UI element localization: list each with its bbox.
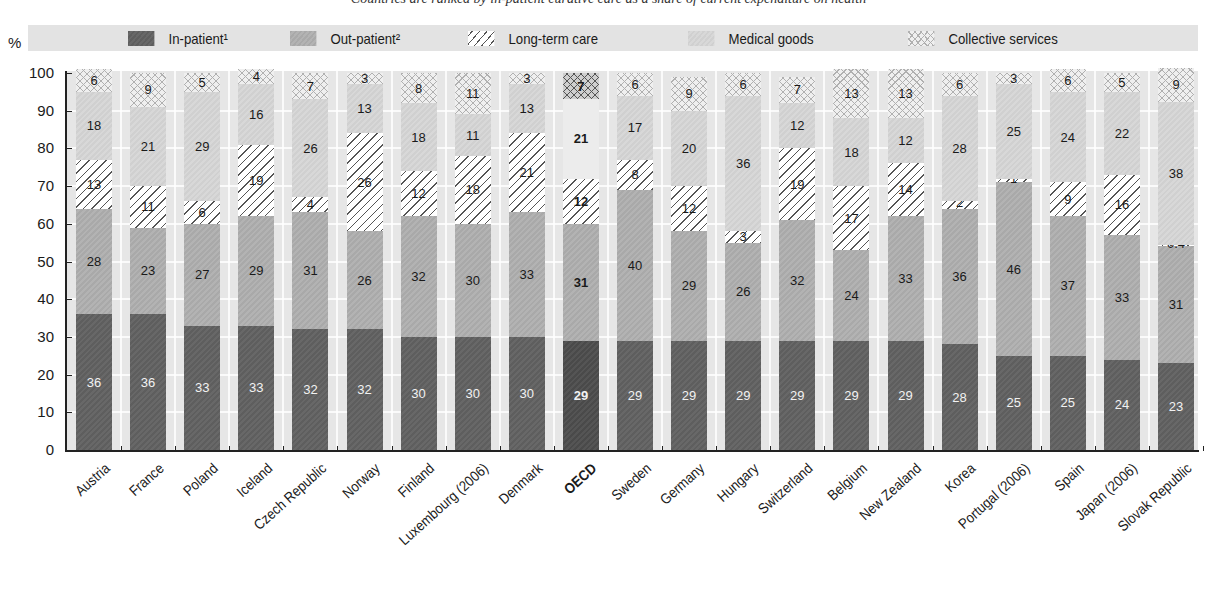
legend-swatch-long-term-care (468, 31, 494, 46)
data-label: 13 (844, 86, 858, 101)
data-label: 14 (898, 182, 912, 197)
gridline-vertical (769, 71, 771, 451)
bar-segment-med: 12 (779, 103, 815, 148)
bar-segment-med: 18 (833, 118, 869, 186)
bar-segment-outp: 29 (238, 216, 274, 325)
bar-segment-ltc: 11 (130, 186, 166, 227)
bar-segment-inp: 29 (888, 341, 924, 450)
bar-segment-outp: 36 (942, 209, 978, 345)
gridline-vertical (823, 71, 825, 451)
bar-segment-inp: 30 (401, 337, 437, 450)
legend-swatch-collective-services (908, 31, 934, 46)
x-tick-mark (608, 446, 609, 451)
bar-segment-inp: 33 (238, 326, 274, 450)
gridline-vertical (932, 71, 934, 451)
bar-segment-inp: 30 (509, 337, 545, 450)
bar-segment-med: 21 (130, 107, 166, 186)
x-tick-mark (337, 446, 338, 451)
legend-label: Out-patient² (330, 30, 400, 47)
bar-segment-ltc: 19 (779, 148, 815, 220)
y-tick-mark (66, 262, 72, 263)
bar-segment-med: 28 (942, 96, 978, 202)
x-tick-label: Austria (72, 460, 113, 499)
y-tick-mark (66, 337, 72, 338)
gridline-vertical (499, 71, 501, 451)
bar-segment-outp: 23 (130, 228, 166, 315)
data-label: 33 (195, 380, 209, 395)
x-tick-mark (229, 446, 230, 451)
bar-segment-outp: 32 (779, 220, 815, 341)
y-tick-label: 100 (10, 64, 54, 81)
bar-segment-inp: 24 (1104, 360, 1140, 450)
x-tick-label: Poland (180, 460, 221, 499)
data-label: 38 (1169, 166, 1183, 181)
x-tick-mark (1095, 446, 1096, 451)
data-label: 31 (303, 263, 317, 278)
bar-segment-ltc: 14 (888, 163, 924, 216)
bar-segment-outp: 30 (455, 224, 491, 337)
x-tick-label: Denmark (495, 460, 545, 507)
bar-segment-ltc: 4 (292, 197, 328, 212)
data-label: 5 (199, 75, 206, 90)
legend-item-collective-services: Collective services (908, 30, 1058, 47)
data-label: 12 (411, 186, 425, 201)
data-label: 22 (1115, 126, 1129, 141)
data-label: 7 (577, 79, 584, 94)
bar-segment-inp: 29 (725, 341, 761, 450)
data-label: 3 (361, 71, 368, 86)
bar-segment-inp: 28 (942, 344, 978, 450)
x-tick-mark (662, 446, 663, 451)
x-tick-label: Belgium (824, 460, 870, 503)
bar-segment-coll: 6 (1050, 69, 1086, 92)
data-label: 3 (1010, 71, 1017, 86)
data-label: 29 (682, 278, 696, 293)
bar-segment-outp: 46 (996, 182, 1032, 355)
gridline-vertical (336, 71, 338, 451)
data-label: 19 (790, 177, 804, 192)
data-label: 29 (195, 139, 209, 154)
data-label: 26 (357, 273, 371, 288)
data-label: 30 (411, 386, 425, 401)
y-tick-mark (66, 111, 72, 112)
x-tick-mark (1041, 446, 1042, 451)
data-label: 30 (520, 386, 534, 401)
y-tick-label: 10 (10, 403, 54, 420)
data-label: 16 (1115, 197, 1129, 212)
data-label: 8 (631, 167, 638, 182)
bar-segment-outp: 31 (1158, 246, 1194, 363)
bar-segment-ltc: 19 (238, 145, 274, 217)
bar-segment-ltc: 1 (996, 179, 1032, 183)
data-label: 17 (628, 120, 642, 135)
data-label: 12 (898, 133, 912, 148)
bar-segment-outp: 33 (509, 212, 545, 336)
legend-swatch-medical-goods (688, 31, 714, 46)
data-label: 29 (844, 388, 858, 403)
bar-segment-coll: 9 (671, 77, 707, 111)
data-label: 29 (249, 263, 263, 278)
data-label: 40 (628, 258, 642, 273)
data-label: 9 (1172, 77, 1179, 92)
y-tick-mark (66, 450, 72, 451)
bar-segment-ltc: 18 (455, 156, 491, 224)
bar-segment-ltc: 12 (671, 186, 707, 231)
data-label: 27 (195, 267, 209, 282)
bar-segment-inp: 29 (833, 341, 869, 450)
data-label: 23 (141, 263, 155, 278)
data-label: 24 (844, 288, 858, 303)
legend-item-long-term-care: Long-term care (468, 30, 598, 47)
gridline-vertical (661, 71, 663, 451)
bar-segment-ltc: 3 (725, 231, 761, 242)
bar-segment-coll: 3 (509, 73, 545, 84)
y-tick-mark (66, 412, 72, 413)
bar-segment-coll: 3 (996, 73, 1032, 84)
x-tick-mark (175, 446, 176, 451)
gridline-vertical (120, 71, 122, 451)
data-label: 18 (87, 118, 101, 133)
x-tick-mark (121, 446, 122, 451)
data-label: 18 (465, 182, 479, 197)
gridline-vertical (607, 71, 609, 451)
bar-segment-coll: 8 (401, 73, 437, 103)
bar-segment-coll: 5 (1104, 73, 1140, 92)
bar-segment-med: 11 (455, 114, 491, 155)
data-label: 3 (740, 229, 747, 244)
